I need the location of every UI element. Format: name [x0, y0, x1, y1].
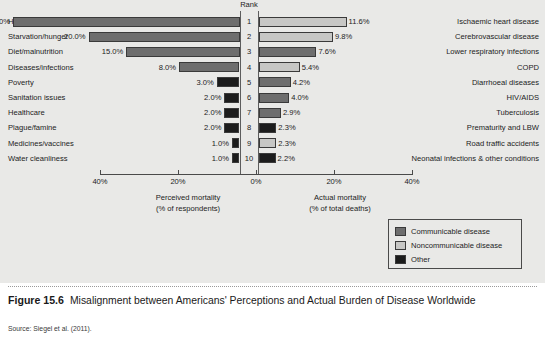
actual-mortality-bar — [259, 17, 347, 27]
left-axis-title-line2: (% of respondents) — [113, 203, 263, 214]
actual-mortality-value: 5.4% — [302, 60, 342, 75]
perceived-mortality-bar — [89, 32, 240, 42]
legend-box: Communicable diseaseNoncommunicable dise… — [388, 219, 522, 269]
actual-disease-label: HIV/AIDS — [359, 90, 539, 105]
perceived-mortality-value: 1.0% — [189, 151, 229, 166]
actual-mortality-bar — [259, 123, 276, 133]
axis-tick — [412, 170, 413, 175]
actual-mortality-value: 4.0% — [291, 90, 331, 105]
right-axis-title-line2: (% of total deaths) — [265, 203, 415, 214]
perceived-mortality-bar — [224, 123, 239, 133]
actual-disease-label: Diarrhoeal diseases — [359, 75, 539, 90]
chart-row: HIV/AIDS30.0%111.6%Ischaemic heart disea… — [0, 14, 545, 29]
actual-mortality-value: 7.6% — [318, 44, 358, 59]
rank-value: 5 — [241, 75, 257, 90]
legend-swatch-icon — [395, 241, 406, 250]
actual-mortality-value: 2.3% — [278, 136, 318, 151]
actual-mortality-bar — [259, 47, 316, 57]
axis-tick-label: 40% — [80, 177, 120, 186]
right-axis-title: Actual mortality (% of total deaths) — [265, 192, 415, 214]
perceived-category-label: Diseases/infections — [8, 60, 130, 75]
perceived-mortality-bar — [232, 138, 240, 148]
legend-item: Noncommunicable disease — [395, 238, 521, 252]
rank-value: 2 — [241, 29, 257, 44]
perceived-mortality-bar — [217, 77, 240, 87]
rank-value: 7 — [241, 105, 257, 120]
chart-row: Diseases/infections8.0%45.4%COPD — [0, 60, 545, 75]
left-axis-title: Perceived mortality (% of respondents) — [113, 192, 263, 214]
perceived-category-label: Water cleanliness — [8, 151, 130, 166]
perceived-mortality-value: 30.0% — [0, 14, 10, 29]
left-axis-title-line1: Perceived mortality — [113, 192, 263, 203]
chart-panel: Rank HIV/AIDS30.0%111.6%Ischaemic heart … — [0, 0, 545, 283]
figure-caption: Figure 15.6Misalignment between American… — [8, 294, 528, 308]
actual-mortality-value: 2.3% — [278, 120, 318, 135]
axis-tick — [334, 170, 335, 175]
chart-row: Plague/famine2.0%82.3%Prematurity and LB… — [0, 120, 545, 135]
rank-value: 10 — [241, 151, 257, 166]
perceived-category-label: Poverty — [8, 75, 130, 90]
perceived-mortality-bar — [224, 93, 239, 103]
actual-disease-label: COPD — [359, 60, 539, 75]
actual-mortality-bar — [259, 62, 300, 72]
actual-mortality-value: 4.2% — [293, 75, 333, 90]
axis-tick-label: 0% — [236, 177, 276, 186]
actual-disease-label: Cerebrovascular disease — [359, 29, 539, 44]
axis-tick — [178, 170, 179, 175]
chart-row: Sanitation issues2.0%64.0%HIV/AIDS — [0, 90, 545, 105]
chart-row: Medicines/vaccines1.0%92.3%Road traffic … — [0, 136, 545, 151]
legend-item: Other — [395, 252, 521, 266]
actual-mortality-bar — [259, 153, 276, 163]
legend-swatch-icon — [395, 255, 406, 264]
rank-value: 6 — [241, 90, 257, 105]
chart-row: Water cleanliness1.0%102.2%Neonatal infe… — [0, 151, 545, 166]
perceived-mortality-bar — [13, 17, 240, 27]
legend-item: Communicable disease — [395, 224, 521, 238]
actual-mortality-bar — [259, 77, 291, 87]
chart-row: Healthcare2.0%72.9%Tuberculosis — [0, 105, 545, 120]
perceived-mortality-bar — [224, 108, 239, 118]
perceived-mortality-bar — [232, 153, 240, 163]
actual-disease-label: Lower respiratory infections — [359, 44, 539, 59]
actual-mortality-bar — [259, 93, 289, 103]
rank-value: 3 — [241, 44, 257, 59]
actual-disease-label: Road traffic accidents — [359, 136, 539, 151]
figure-page: Rank HIV/AIDS30.0%111.6%Ischaemic heart … — [0, 0, 545, 346]
caption-divider — [8, 286, 537, 287]
axis-tick — [256, 170, 257, 175]
rank-column-header: Rank — [226, 0, 272, 9]
perceived-mortality-value: 8.0% — [136, 60, 176, 75]
perceived-mortality-bar — [179, 62, 239, 72]
actual-disease-label: Ischaemic heart disease — [359, 14, 539, 29]
actual-mortality-value: 2.9% — [283, 105, 323, 120]
axis-tick — [100, 170, 101, 175]
perceived-category-label: Sanitation issues — [8, 90, 130, 105]
axis-tick-label: 20% — [158, 177, 198, 186]
actual-mortality-bar — [259, 138, 276, 148]
actual-disease-label: Prematurity and LBW — [359, 120, 539, 135]
perceived-mortality-value: 2.0% — [181, 105, 221, 120]
perceived-mortality-value: 20.0% — [46, 29, 86, 44]
legend-label: Other — [411, 255, 430, 264]
perceived-mortality-bar — [126, 47, 239, 57]
rank-value: 4 — [241, 60, 257, 75]
actual-mortality-value: 2.2% — [278, 151, 318, 166]
chart-row: Starvation/hunger20.0%29.8%Cerebrovascul… — [0, 29, 545, 44]
caption-zone: Figure 15.6Misalignment between American… — [0, 283, 545, 346]
chart-row: Diet/malnutrition15.0%37.6%Lower respira… — [0, 44, 545, 59]
perceived-mortality-value: 2.0% — [181, 90, 221, 105]
perceived-category-label: Medicines/vaccines — [8, 136, 130, 151]
axis-tick-label: 20% — [314, 177, 354, 186]
perceived-mortality-value: 1.0% — [189, 136, 229, 151]
axis-tick-label: 40% — [392, 177, 432, 186]
rank-value: 9 — [241, 136, 257, 151]
actual-disease-label: Neonatal infections & other conditions — [359, 151, 539, 166]
perceived-category-label: Healthcare — [8, 105, 130, 120]
legend-label: Communicable disease — [411, 227, 490, 236]
rank-value: 1 — [241, 14, 257, 29]
perceived-mortality-value: 15.0% — [83, 44, 123, 59]
legend-swatch-icon — [395, 227, 406, 236]
perceived-mortality-value: 2.0% — [181, 120, 221, 135]
figure-title: Misalignment between Americans' Percepti… — [70, 295, 476, 306]
perceived-category-label: Plague/famine — [8, 120, 130, 135]
